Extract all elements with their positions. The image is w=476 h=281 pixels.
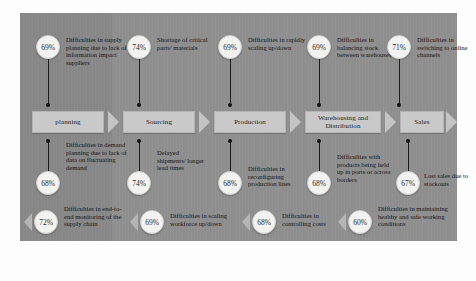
cross-callout-label-4: Difficulties in maintaining healthy and … (378, 205, 456, 228)
bottom-callout-label-2: Delayed shipments/ longer lead times (157, 149, 205, 172)
top-callout-percent-1[interactable]: 69% (36, 35, 60, 59)
cross-callout-percent-2[interactable]: 69% (140, 210, 164, 234)
top-connector-4 (319, 59, 320, 105)
cross-callout-percent-3[interactable]: 68% (252, 210, 276, 234)
top-callout-percent-5[interactable]: 71% (387, 35, 411, 59)
top-connector-3 (230, 59, 231, 105)
stage-label: Sales (414, 118, 429, 126)
top-callout-percent-4[interactable]: 69% (307, 35, 331, 59)
bottom-callout-percent-2[interactable]: 74% (127, 171, 151, 195)
top-callout-percent-3[interactable]: 69% (218, 35, 242, 59)
stage-box-sourcing[interactable]: Sourcing (123, 111, 195, 133)
cross-callout-percent-4[interactable]: 60% (348, 210, 372, 234)
bottom-connector-2 (139, 141, 140, 173)
bottom-connector-1 (48, 141, 49, 173)
bottom-callout-label-5: Lost sales due to stockouts (424, 172, 474, 187)
top-callout-percent-2[interactable]: 74% (127, 35, 151, 59)
top-connector-dot-3 (228, 103, 232, 107)
top-connector-5 (399, 59, 400, 105)
top-callout-label-2: Shortage of critical parts/ materials (157, 36, 215, 51)
stage-box-planning[interactable]: planning (32, 111, 104, 133)
flow-chevron-4 (385, 111, 396, 133)
cross-chevron-4 (338, 213, 346, 231)
top-callout-label-5: Difficulties in switching to online chan… (417, 36, 476, 59)
top-callout-label-3: Difficulties in rapidly scaling up/down (248, 36, 306, 51)
stage-label: planning (55, 118, 80, 126)
bottom-callout-percent-5[interactable]: 67% (396, 171, 420, 195)
bottom-connector-3 (230, 141, 231, 173)
cross-chevron-3 (242, 213, 250, 231)
top-connector-dot-1 (46, 103, 50, 107)
bottom-callout-percent-4[interactable]: 68% (307, 171, 331, 195)
stage-box-production[interactable]: Production (214, 111, 286, 133)
top-callout-label-1: Difficulties in supply planning due to l… (66, 36, 128, 66)
bottom-connector-4 (319, 141, 320, 173)
cross-chevron-2 (130, 213, 138, 231)
bottom-callout-percent-3[interactable]: 68% (218, 171, 242, 195)
cross-callout-label-1: Difficulties in end-to-end monitoring of… (64, 205, 126, 228)
bottom-callout-percent-1[interactable]: 68% (36, 171, 60, 195)
flow-chevron-1 (108, 111, 119, 133)
flow-chevron-2 (199, 111, 210, 133)
supply-chain-panel: planning Sourcing Production Warehousing… (20, 13, 457, 241)
bottom-connector-dot-3 (228, 139, 232, 143)
bottom-connector-dot-5 (406, 139, 410, 143)
cross-callout-percent-1[interactable]: 72% (34, 210, 58, 234)
stage-label: Sourcing (146, 118, 172, 126)
stage-box-warehousing[interactable]: Warehousing and Distribution (305, 111, 381, 133)
bottom-callout-label-1: Difficulties in demand planning due to l… (66, 141, 130, 171)
bottom-connector-dot-2 (137, 139, 141, 143)
cross-callout-label-2: Difficulties in scaling workforce up/dow… (170, 212, 246, 227)
top-connector-1 (48, 59, 49, 105)
bottom-callout-label-3: Difficulties in reconfiguring production… (248, 165, 306, 188)
stage-label: Production (234, 118, 266, 126)
flow-chevron-5 (446, 111, 457, 133)
cross-callout-label-3: Difficulties in controlling costs (282, 212, 340, 227)
bottom-connector-dot-1 (46, 139, 50, 143)
top-connector-dot-4 (317, 103, 321, 107)
stage-label: Warehousing and Distribution (306, 114, 380, 130)
diagram-canvas: planning Sourcing Production Warehousing… (0, 0, 476, 281)
bottom-connector-5 (408, 141, 409, 173)
stage-box-sales[interactable]: Sales (400, 111, 444, 133)
flow-chevron-3 (290, 111, 301, 133)
top-connector-dot-2 (137, 103, 141, 107)
top-connector-dot-5 (397, 103, 401, 107)
top-connector-2 (139, 59, 140, 105)
bottom-connector-dot-4 (317, 139, 321, 143)
bottom-callout-label-4: Difficulties with products being held up… (337, 153, 395, 183)
cross-chevron-1 (24, 213, 32, 231)
